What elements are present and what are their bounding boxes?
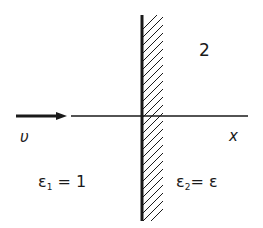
axis-label: x <box>229 129 238 144</box>
medium1-label: ε1 = 1 <box>38 174 86 192</box>
medium2-equals: = <box>190 172 209 191</box>
velocity-label: υ <box>20 130 29 145</box>
medium1-value: 1 <box>76 172 86 191</box>
wall-hatching <box>143 9 163 228</box>
medium1-symbol: ε <box>38 172 47 191</box>
medium2-value: ε <box>209 172 218 191</box>
medium2-symbol: ε <box>176 172 185 191</box>
medium1-equals: = <box>52 172 76 191</box>
region-label: 2 <box>199 42 210 59</box>
diagram-canvas <box>0 0 263 228</box>
medium2-label: ε2= ε <box>176 174 218 192</box>
velocity-arrow-icon <box>16 112 67 120</box>
